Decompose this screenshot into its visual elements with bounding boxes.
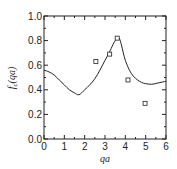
theory-curve [44,37,166,95]
chart: 0123456 0.00.20.40.60.81.0 qa fc(qa) [0,0,177,169]
data-point-square [108,52,112,56]
x-tick-label: 5 [143,141,149,152]
y-tick-label: 0.6 [28,60,42,71]
y-tick-label: 0.0 [28,134,42,145]
x-axis-title: qa [100,153,110,164]
x-tick-label: 0 [41,141,47,152]
data-point-square [143,101,147,105]
plot-frame [44,16,166,139]
x-tick-label: 1 [62,141,68,152]
x-tick-labels: 0123456 [41,141,169,152]
y-tick-label: 0.8 [28,35,42,46]
y-axis-title: fc(qa) [6,66,19,89]
x-tick-label: 3 [102,141,108,152]
axis-ticks [44,16,166,139]
y-tick-label: 0.2 [28,109,42,120]
y-tick-label: 0.4 [28,84,42,95]
data-point-square [126,78,130,82]
svg-text:fc(qa): fc(qa) [6,66,19,89]
data-point-square [94,60,98,64]
y-tick-label: 1.0 [28,11,42,22]
x-tick-label: 6 [163,141,169,152]
experiment-markers [94,36,147,105]
x-tick-label: 4 [123,141,129,152]
data-point-square [115,36,119,40]
y-tick-labels: 0.00.20.40.60.81.0 [28,11,42,145]
x-tick-label: 2 [82,141,88,152]
